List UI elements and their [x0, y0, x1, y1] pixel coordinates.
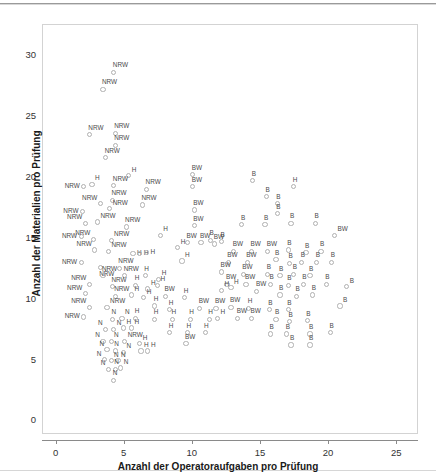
point-marker-icon: [107, 206, 112, 211]
point-label: B: [279, 285, 283, 291]
point-label: N: [101, 360, 106, 366]
point-label: H: [169, 300, 174, 306]
x-tick-label: 25: [391, 447, 402, 458]
point-marker-icon: [301, 282, 306, 287]
point-label: NRW: [114, 135, 129, 141]
point-marker-icon: [288, 221, 293, 226]
point-marker-icon: [163, 294, 168, 299]
point-marker-icon: [83, 291, 88, 296]
point-label: B: [286, 324, 290, 330]
point-marker-icon: [87, 132, 92, 137]
point-label: B: [293, 264, 297, 270]
point-label: H: [144, 266, 149, 272]
point-label: H: [132, 167, 137, 173]
point-label: H: [248, 298, 253, 304]
point-label: H: [189, 309, 194, 315]
point-label: B: [290, 213, 294, 219]
point-label: BW: [227, 252, 237, 258]
point-marker-icon: [104, 347, 109, 352]
figure-root: NRWNRWNRWNRWNRWNRWHNRWHNRWNRWBWBWBHNRWNR…: [0, 0, 436, 475]
point-label: B: [252, 171, 256, 177]
point-label: N: [114, 332, 119, 338]
point-label: H: [151, 249, 156, 255]
point-label: N: [125, 309, 130, 315]
point-marker-icon: [111, 183, 116, 188]
point-label: H: [204, 323, 209, 329]
point-label: BW: [192, 177, 202, 183]
point-marker-icon: [140, 202, 145, 207]
point-label: B: [309, 324, 313, 330]
point-marker-icon: [137, 341, 142, 346]
point-label: NRW: [105, 148, 120, 154]
point-marker-icon: [83, 221, 88, 226]
point-marker-icon: [273, 257, 278, 262]
point-marker-icon: [152, 317, 157, 322]
point-marker-icon: [228, 285, 233, 290]
point-marker-icon: [235, 316, 240, 321]
point-label: NRW: [113, 62, 128, 68]
point-label: NRW: [114, 231, 129, 237]
point-marker-icon: [197, 306, 202, 311]
point-label: BW: [256, 281, 266, 287]
point-label: H: [184, 288, 189, 294]
point-label: BW: [165, 286, 175, 292]
point-marker-icon: [79, 260, 84, 265]
point-label: NRW: [113, 200, 128, 206]
point-marker-icon: [203, 330, 208, 335]
point-marker-icon: [192, 207, 197, 212]
point-marker-icon: [310, 292, 315, 297]
x-tick-label: 10: [187, 447, 198, 458]
point-label: H: [169, 323, 174, 329]
point-marker-icon: [215, 316, 220, 321]
point-label: N: [113, 370, 118, 376]
point-marker-icon: [250, 178, 255, 183]
point-label: H: [293, 177, 298, 183]
point-label: H: [208, 309, 213, 315]
point-label: B: [325, 274, 329, 280]
point-marker-icon: [124, 224, 129, 229]
point-marker-icon: [277, 273, 282, 278]
point-label: NRW: [102, 266, 117, 272]
point-label: H: [135, 308, 140, 314]
point-label: NRW: [141, 195, 156, 201]
point-marker-icon: [307, 342, 312, 347]
point-label: B: [312, 285, 316, 291]
point-marker-icon: [198, 240, 203, 245]
point-label: H: [147, 289, 152, 295]
point-marker-icon: [118, 365, 123, 370]
point-label: H: [171, 309, 176, 315]
point-marker-icon: [167, 330, 172, 335]
point-marker-icon: [143, 273, 148, 278]
point-label: B: [306, 311, 310, 317]
point-marker-icon: [158, 233, 163, 238]
point-marker-icon: [89, 182, 94, 187]
point-marker-icon: [103, 327, 108, 332]
point-label: H: [95, 175, 100, 181]
point-label: NRW: [111, 277, 126, 283]
scatter-points-layer: NRWNRWNRWNRWNRWNRWHNRWHNRWNRWBWBWBHNRWNR…: [43, 25, 417, 433]
point-marker-icon: [106, 249, 111, 254]
point-marker-icon: [262, 222, 267, 227]
point-label: B: [287, 300, 291, 306]
x-tick-label: 5: [121, 447, 126, 458]
point-marker-icon: [129, 292, 134, 297]
point-marker-icon: [106, 367, 111, 372]
point-label: B: [279, 266, 283, 272]
point-label: N: [114, 341, 119, 347]
point-label: B: [265, 187, 269, 193]
point-label: N: [98, 320, 103, 326]
point-label: H: [163, 226, 168, 232]
point-label: BW: [245, 274, 255, 280]
point-marker-icon: [328, 330, 333, 335]
point-marker-icon: [98, 201, 103, 206]
x-tick-label: 20: [323, 447, 334, 458]
point-marker-icon: [100, 273, 105, 278]
point-marker-icon: [277, 292, 282, 297]
point-label: NRW: [65, 183, 80, 189]
point-marker-icon: [190, 184, 195, 189]
point-label: NRW: [67, 214, 82, 220]
point-label: B: [343, 297, 347, 303]
point-label: NRW: [113, 176, 128, 182]
point-marker-icon: [117, 266, 122, 271]
point-label: NRW: [62, 259, 77, 265]
